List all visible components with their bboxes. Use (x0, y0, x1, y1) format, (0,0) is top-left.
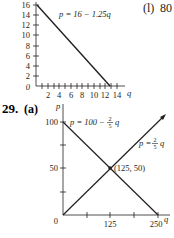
intersection-label: (125, 50) (114, 163, 145, 173)
svg-text:50: 50 (50, 163, 59, 173)
svg-text:4: 4 (57, 90, 62, 100)
svg-text:2: 2 (26, 71, 30, 81)
svg-text:2: 2 (46, 90, 50, 100)
answer-80: 80 (160, 1, 172, 15)
chart-top-labels: 16 14 12 10 8 6 4 2 0 2 4 6 8 10 12 14 q… (22, 0, 173, 100)
problem-number: 29. (2, 101, 18, 116)
svg-text:5: 5 (109, 123, 112, 129)
svg-text:12: 12 (22, 20, 31, 30)
svg-text:250: 250 (150, 219, 163, 229)
svg-text:4: 4 (26, 61, 31, 71)
svg-text:14: 14 (113, 90, 122, 100)
equation-label: p = 16 − 1.25q (58, 9, 112, 19)
svg-text:6: 6 (69, 90, 73, 100)
svg-text:14: 14 (22, 10, 31, 20)
svg-text:10: 10 (22, 30, 31, 40)
svg-text:10: 10 (90, 90, 99, 100)
part-label-l: (l) (143, 1, 154, 15)
svg-text:q: q (160, 138, 165, 148)
svg-text:125: 125 (104, 219, 117, 229)
svg-text:12: 12 (101, 90, 110, 100)
svg-text:8: 8 (80, 90, 84, 100)
svg-text:8: 8 (26, 41, 30, 51)
part-label-a: (a) (24, 102, 38, 116)
svg-text:p =: p = (138, 138, 151, 148)
equation-supply: p = 2 5 q (138, 137, 165, 150)
equation-demand: p = 100 − 2 5 q (69, 116, 120, 129)
intersection-point (108, 166, 112, 170)
svg-text:0: 0 (54, 216, 58, 226)
svg-text:6: 6 (26, 51, 30, 61)
svg-text:p = 100 −: p = 100 − (69, 117, 105, 127)
svg-text:0: 0 (26, 82, 31, 92)
svg-text:2: 2 (154, 137, 157, 143)
svg-text:16: 16 (22, 0, 31, 10)
svg-text:p: p (55, 101, 60, 111)
svg-text:q: q (164, 214, 169, 224)
svg-text:2: 2 (109, 116, 112, 122)
svg-text:q: q (127, 88, 132, 98)
svg-text:100: 100 (45, 117, 58, 127)
svg-text:q: q (115, 117, 120, 127)
svg-text:5: 5 (154, 144, 157, 150)
figure-canvas: 16 14 12 10 8 6 4 2 0 2 4 6 8 10 12 14 q… (0, 0, 174, 238)
